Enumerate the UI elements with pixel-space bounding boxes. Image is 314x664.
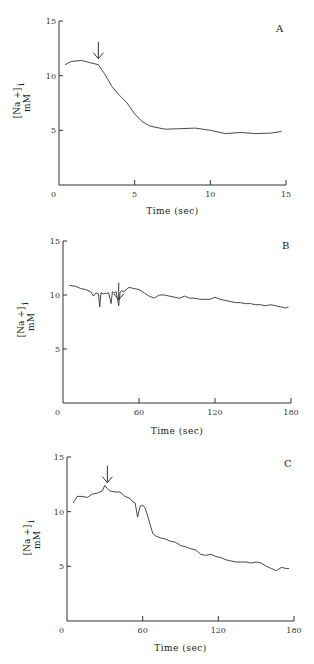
x-tick-label: 0 [55,408,60,417]
chart-panel-b: 51015060120180BTime (sec)[Na +]imM [16,237,299,436]
x-axis-title: Time (sec) [154,643,207,653]
y-tick-label: 5 [59,562,64,571]
x-tick-label: 60 [134,408,144,417]
x-tick-label: 0 [51,190,56,199]
y-tick-label: 10 [54,508,64,517]
y-axis-title-line2: mM [22,94,32,112]
y-axis-title-subscript: i [26,520,36,523]
x-tick-label: 120 [207,408,222,417]
y-tick-label: 5 [55,345,60,354]
x-tick-label: 120 [211,626,226,635]
y-tick-label: 10 [46,72,56,81]
down-arrow-icon [102,466,112,483]
x-tick-label: 10 [205,190,215,199]
x-tick-label: 0 [59,626,64,635]
data-trace [65,60,281,133]
y-tick-label: 15 [50,237,60,246]
chart-panel-a: 51015051015ATime (sec)[Na +]imM [12,17,291,216]
x-tick-label: 5 [132,190,137,199]
panel-label: C [284,458,292,469]
chart-panel-c: 51015060120180CTime (sec)[Na +]imM [22,453,302,653]
data-trace [69,285,288,308]
y-axis-title-line1: [Na +] [22,525,32,556]
down-arrow-icon [93,42,103,59]
figure: 51015051015ATime (sec)[Na +]imM510150601… [0,0,314,664]
x-axis-title: Time (sec) [146,206,199,216]
y-axis-title: [Na +]imM [22,520,42,555]
y-axis-title-subscript: i [20,302,30,305]
y-tick-label: 15 [46,17,56,26]
x-tick-label: 180 [283,408,298,417]
data-trace [73,485,289,570]
y-axis-title: [Na +]imM [12,83,32,118]
y-axis-title-subscript: i [16,83,26,86]
panel-label: B [282,240,289,251]
y-tick-label: 15 [54,453,64,462]
y-axis-title-line1: [Na +] [16,307,26,338]
panel-label: A [275,23,284,34]
x-tick-label: 180 [286,626,301,635]
y-tick-label: 10 [50,291,60,300]
x-axis-title: Time (sec) [151,426,204,436]
x-tick-label: 15 [281,190,291,199]
y-tick-label: 5 [51,126,56,135]
x-tick-label: 60 [138,626,148,635]
y-axis-title-line1: [Na +] [12,88,22,119]
y-axis-title-line2: mM [26,313,36,331]
y-axis-title: [Na +]imM [16,302,36,337]
y-axis-title-line2: mM [32,531,42,549]
